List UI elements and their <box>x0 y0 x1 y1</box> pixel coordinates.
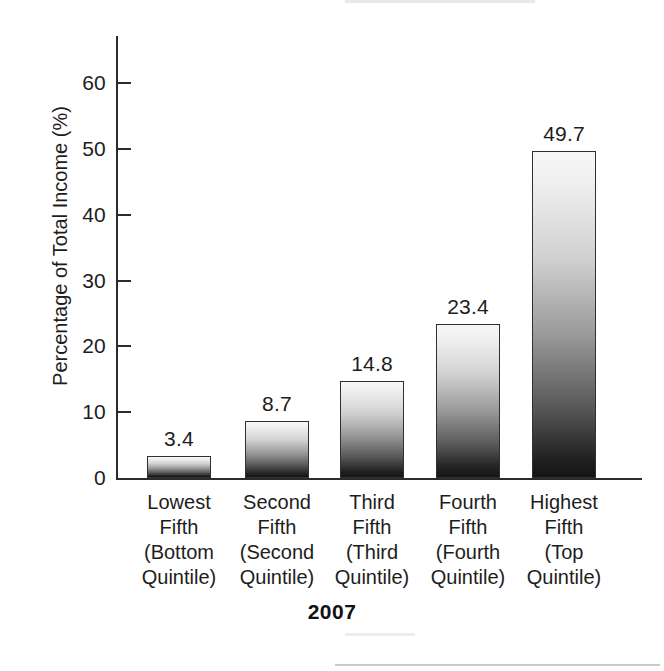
scan-artifact-bottom-upper <box>345 633 415 636</box>
bar-value-label: 23.4 <box>413 296 523 317</box>
bar-value-label: 14.8 <box>317 353 427 374</box>
scan-artifact-bottom-rule <box>335 664 660 666</box>
category-label-line: (Top <box>504 540 624 565</box>
y-axis-tick-label: 60 <box>64 72 106 93</box>
y-axis-tick-label: 10 <box>64 401 106 422</box>
y-axis-tick-label: 0 <box>64 467 106 488</box>
bar <box>436 324 500 478</box>
y-axis-tick-mark <box>118 280 131 282</box>
y-axis-tick-mark <box>118 148 131 150</box>
y-axis-title: Percentage of Total Income (%) <box>49 46 71 446</box>
bar-value-label: 49.7 <box>509 123 619 144</box>
x-axis-line <box>116 478 642 480</box>
y-axis-tick-label: 40 <box>64 204 106 225</box>
category-label-line: Quintile) <box>504 565 624 590</box>
category-label-line: Fifth <box>504 515 624 540</box>
scan-artifact-top <box>345 0 535 3</box>
y-axis-tick-mark <box>118 82 131 84</box>
y-axis-tick-label: 50 <box>64 138 106 159</box>
bar <box>340 381 404 478</box>
y-axis-tick-label: 20 <box>64 335 106 356</box>
bar <box>147 456 211 478</box>
x-axis-title: 2007 <box>0 600 664 624</box>
y-axis-tick-mark <box>118 411 131 413</box>
y-axis-tick-label: 30 <box>64 270 106 291</box>
y-axis-line <box>116 36 118 480</box>
category-label-line: Highest <box>504 490 624 515</box>
bar <box>532 151 596 478</box>
y-axis-tick-mark <box>118 345 131 347</box>
x-axis-category-label: HighestFifth(TopQuintile) <box>504 490 624 590</box>
bar-chart-figure: Percentage of Total Income (%) 010203040… <box>0 0 664 671</box>
bar-value-label: 8.7 <box>222 393 332 414</box>
bar-value-label: 3.4 <box>124 428 234 449</box>
y-axis-tick-mark <box>118 214 131 216</box>
bar <box>245 421 309 478</box>
